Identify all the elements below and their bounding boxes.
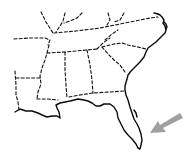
state-borders xyxy=(14,12,158,110)
southeast-us-map xyxy=(0,0,190,160)
arrow-icon xyxy=(150,113,183,133)
coastline xyxy=(15,13,167,149)
map-container: Southeastern United States outline map xyxy=(0,0,190,160)
